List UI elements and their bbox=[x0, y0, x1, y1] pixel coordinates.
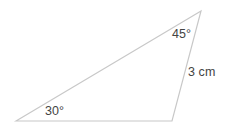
side-length-label-3-cm: 3 cm bbox=[188, 66, 216, 79]
angle-label-45-degrees: 45° bbox=[172, 28, 191, 41]
angle-label-30-degrees: 30° bbox=[45, 105, 64, 118]
triangle-diagram: 30° 45° 3 cm bbox=[0, 0, 232, 131]
